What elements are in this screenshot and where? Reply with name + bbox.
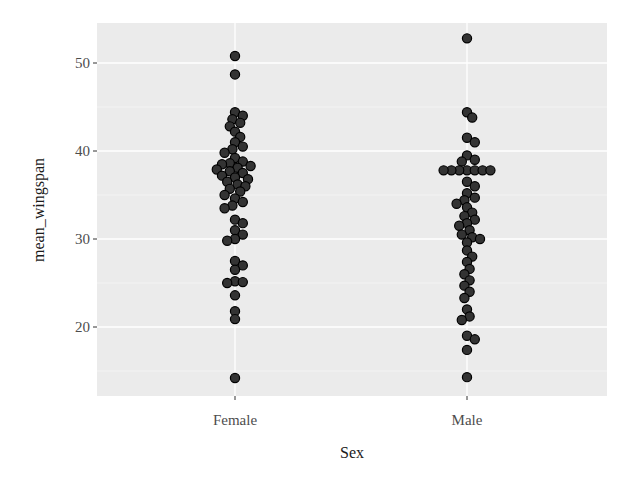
data-point-female xyxy=(238,197,247,206)
y-axis: 20304050 xyxy=(75,55,97,335)
y-tick-label: 20 xyxy=(75,319,90,335)
data-point-male xyxy=(460,293,469,302)
data-point-male xyxy=(470,335,479,344)
data-point-male xyxy=(470,155,479,164)
data-point-female xyxy=(230,70,239,79)
data-point-female xyxy=(238,278,247,287)
data-point-female xyxy=(223,278,232,287)
data-point-male xyxy=(462,34,471,43)
data-point-female xyxy=(220,204,229,213)
data-point-male xyxy=(439,166,448,175)
x-tick-label-male: Male xyxy=(452,412,483,428)
data-point-female xyxy=(230,51,239,60)
data-point-male xyxy=(457,315,466,324)
data-point-male xyxy=(486,166,495,175)
data-point-female xyxy=(220,148,229,157)
data-point-female xyxy=(230,265,239,274)
panel-background xyxy=(97,23,607,396)
data-point-male xyxy=(470,138,479,147)
data-point-female xyxy=(246,161,255,170)
x-axis-title: Sex xyxy=(340,444,364,461)
y-axis-title: mean_wingspan xyxy=(30,158,48,262)
data-point-female xyxy=(236,118,245,127)
data-point-female xyxy=(238,142,247,151)
x-axis: FemaleMale xyxy=(213,396,483,428)
data-point-female xyxy=(238,219,247,228)
data-point-male xyxy=(470,193,479,202)
data-point-male xyxy=(462,345,471,354)
y-tick-label: 50 xyxy=(75,55,90,71)
data-point-female xyxy=(230,291,239,300)
y-tick-label: 30 xyxy=(75,231,90,247)
data-point-female xyxy=(230,373,239,382)
data-point-male xyxy=(468,113,477,122)
data-point-male xyxy=(462,373,471,382)
data-point-female xyxy=(230,314,239,323)
chart: 20304050 FemaleMale Sex mean_wingspan xyxy=(0,0,631,482)
data-point-female xyxy=(220,190,229,199)
data-point-male xyxy=(455,221,464,230)
data-point-male xyxy=(452,199,461,208)
data-point-male xyxy=(475,234,484,243)
y-tick-label: 40 xyxy=(75,143,90,159)
data-point-male xyxy=(457,157,466,166)
data-point-male xyxy=(470,182,479,191)
data-point-female xyxy=(223,236,232,245)
x-tick-label-female: Female xyxy=(213,412,257,428)
